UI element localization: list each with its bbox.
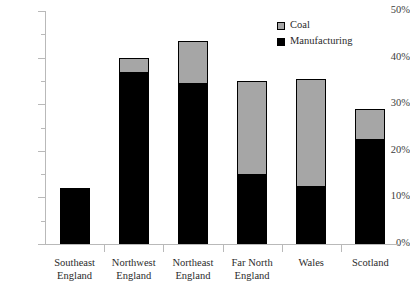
legend-label-manufacturing: Manufacturing <box>290 36 352 47</box>
bar-segment-manufacturing <box>296 186 326 244</box>
x-tick <box>341 245 342 252</box>
bar-segment-manufacturing <box>60 188 90 244</box>
bar-segment-manufacturing <box>119 72 149 244</box>
bar-segment-manufacturing <box>178 83 208 244</box>
x-tick-label: Far NorthEngland <box>223 256 282 282</box>
legend-swatch-coal-icon <box>277 22 285 30</box>
bar-segment-manufacturing <box>237 174 267 244</box>
x-tick-label-line: Northeast <box>163 256 222 269</box>
chart-legend: Coal Manufacturing <box>277 18 352 50</box>
x-tick-label-line: England <box>104 269 163 282</box>
x-tick-label-line: Scotland <box>341 256 400 269</box>
bar-group <box>60 11 90 244</box>
x-tick <box>223 245 224 252</box>
x-tick-label-line: England <box>45 269 104 282</box>
x-tick <box>282 245 283 252</box>
x-tick-label-line: Northwest <box>104 256 163 269</box>
x-tick-label-line: England <box>223 269 282 282</box>
x-tick-label-line: Wales <box>282 256 341 269</box>
legend-swatch-manufacturing-icon <box>277 38 285 46</box>
x-tick-label: NorthwestEngland <box>104 256 163 282</box>
x-tick-label-line: Southeast <box>45 256 104 269</box>
legend-item-coal: Coal <box>277 18 352 33</box>
x-tick-label: SoutheastEngland <box>45 256 104 282</box>
legend-label-coal: Coal <box>290 20 310 31</box>
bar-group <box>178 11 208 244</box>
x-tick-label: NortheastEngland <box>163 256 222 282</box>
legend-item-manufacturing: Manufacturing <box>277 34 352 49</box>
bar-group <box>355 11 385 244</box>
x-tick <box>163 245 164 252</box>
chart-figure: 0%10%20%30%40%50% SoutheastEnglandNorthw… <box>0 0 410 293</box>
x-tick-label-line: Far North <box>223 256 282 269</box>
x-tick <box>104 245 105 252</box>
bar-segment-manufacturing <box>355 139 385 244</box>
x-tick-label: Wales <box>282 256 341 269</box>
x-tick-label: Scotland <box>341 256 400 269</box>
x-tick-label-line: England <box>163 269 222 282</box>
bar-group <box>119 11 149 244</box>
bar-group <box>237 11 267 244</box>
